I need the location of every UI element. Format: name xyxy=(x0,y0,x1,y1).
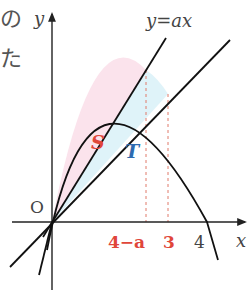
tick-3: 3 xyxy=(163,232,175,252)
cut-text-2: た xyxy=(0,40,22,72)
tick-4: 4 xyxy=(194,232,205,252)
tick-4-minus-a: 4−a xyxy=(108,232,145,252)
origin-label: O xyxy=(30,197,44,217)
x-axis-label: x xyxy=(236,230,246,251)
line-label: y=ax xyxy=(146,10,192,31)
region-t-label: T xyxy=(125,140,139,162)
cut-text-1: の xyxy=(0,0,22,32)
region-s-label: S xyxy=(91,131,105,153)
y-axis-label: y xyxy=(34,8,44,29)
